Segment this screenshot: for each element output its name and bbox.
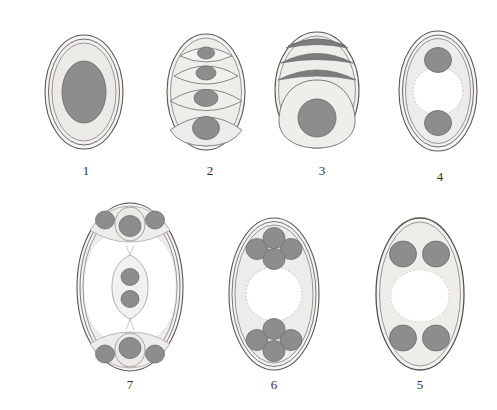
- nucleus: [62, 61, 106, 123]
- nucleus-top: [425, 48, 452, 73]
- central-nucleus-lower: [121, 291, 139, 308]
- nucleus-3: [194, 90, 218, 107]
- nucleus-2: [196, 66, 216, 80]
- figure-label-1: 1: [74, 164, 98, 178]
- nucleus-bottom-right: [423, 325, 450, 351]
- figure-plate: 1 2 3 4 7 6 5: [0, 0, 497, 410]
- polar-nucleus-bottom-right: [146, 345, 165, 363]
- polar-nucleus-top-center: [119, 216, 141, 237]
- nucleus-bottom-left: [390, 325, 417, 351]
- polar-nucleus-bottom-left: [96, 345, 115, 363]
- figure-label-3: 3: [310, 164, 334, 178]
- figure-label-7: 7: [118, 378, 142, 392]
- nucleus: [298, 99, 336, 137]
- figure-1: [30, 22, 138, 162]
- polar-nucleus-top-left: [96, 211, 115, 229]
- figure-6: [224, 212, 324, 380]
- nucleus-top-lower: [263, 249, 285, 270]
- nucleus-1: [198, 47, 215, 59]
- central-void: [391, 270, 449, 322]
- figure-5: [370, 212, 470, 380]
- figure-4: [385, 18, 491, 168]
- figure-3: [258, 18, 376, 168]
- polar-nucleus-bottom-center: [119, 338, 141, 359]
- central-nucleus-upper: [121, 269, 139, 286]
- nucleus-top-upper: [263, 228, 285, 249]
- figure-label-4: 4: [428, 170, 452, 184]
- central-void: [246, 267, 302, 321]
- nucleus-4: [193, 117, 220, 140]
- central-void: [413, 67, 463, 115]
- figure-label-5: 5: [408, 378, 432, 392]
- figure-2: [150, 18, 262, 166]
- nucleus-bottom-upper: [263, 319, 285, 340]
- nucleus-bottom: [425, 111, 452, 136]
- nucleus-top-left: [390, 241, 417, 267]
- nucleus-top-right: [423, 241, 450, 267]
- nucleus-bottom-lower: [263, 341, 285, 362]
- figure-label-6: 6: [262, 378, 286, 392]
- figure-label-2: 2: [198, 164, 222, 178]
- figure-7: [72, 200, 188, 380]
- polar-nucleus-top-right: [146, 211, 165, 229]
